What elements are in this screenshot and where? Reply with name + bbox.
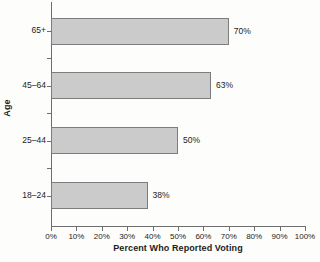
x-axis-tick xyxy=(305,227,306,231)
bar-value-label: 38% xyxy=(153,182,170,209)
x-axis-tick xyxy=(178,227,179,231)
y-axis-tick xyxy=(47,113,51,114)
bar-value-label: 63% xyxy=(216,72,233,99)
y-axis-tick xyxy=(47,58,51,59)
y-axis-tick-label: 18–24 xyxy=(2,190,46,200)
x-axis-tick xyxy=(102,227,103,231)
x-axis-title: Percent Who Reported Voting xyxy=(51,243,305,253)
y-axis-title: Age xyxy=(2,88,12,128)
y-axis-tick-label: 45–64 xyxy=(2,80,46,90)
x-axis-tick xyxy=(203,227,204,231)
bar-18-24 xyxy=(51,182,148,209)
x-axis-tick-label: 100% xyxy=(288,232,320,241)
x-axis-tick xyxy=(280,227,281,231)
bar-chart: Age 65+ 45–64 25–44 18–24 70% 63% 50% 38… xyxy=(0,0,320,262)
x-axis-tick xyxy=(153,227,154,231)
x-axis-tick xyxy=(127,227,128,231)
x-axis-tick xyxy=(76,227,77,231)
bar-value-label: 70% xyxy=(234,18,251,45)
x-axis-tick xyxy=(254,227,255,231)
bar-25-44 xyxy=(51,127,178,154)
x-axis-tick xyxy=(51,227,52,231)
bar-45-64 xyxy=(51,72,211,99)
y-axis-tick xyxy=(47,168,51,169)
x-axis-tick xyxy=(229,227,230,231)
bar-value-label: 50% xyxy=(183,127,200,154)
y-axis-tick-label: 25–44 xyxy=(2,135,46,145)
bar-65-plus xyxy=(51,18,229,45)
y-axis-tick-label: 65+ xyxy=(2,25,46,35)
